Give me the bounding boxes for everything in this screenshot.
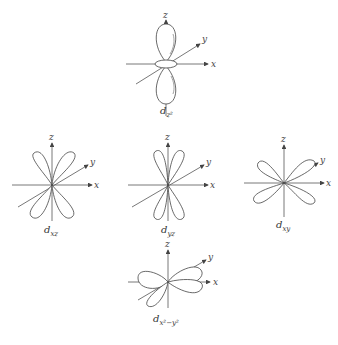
svg-text:z: z <box>164 132 170 142</box>
svg-text:x: x <box>210 180 215 190</box>
svg-text:x: x <box>213 277 218 287</box>
svg-text:y: y <box>207 252 214 262</box>
svg-text:x: x <box>211 59 216 69</box>
svg-text:z: z <box>164 239 170 249</box>
orbital-dyz: z y x <box>128 132 215 221</box>
orbital-diagram: z y x dz² z y x dxz z y x dyz <box>0 0 338 345</box>
svg-text:y: y <box>201 34 208 44</box>
orbital-dxz: z y x <box>12 132 99 221</box>
svg-text:y: y <box>205 157 212 167</box>
orbital-dx2-y2: z y x <box>128 239 218 308</box>
label-dx2-y2: dx²−y² <box>153 313 179 327</box>
svg-text:z: z <box>162 10 168 20</box>
label-dxz: dxz <box>44 224 58 238</box>
svg-text:x: x <box>94 180 99 190</box>
svg-text:y: y <box>89 157 96 167</box>
label-dyz: dyz <box>161 224 175 238</box>
label-dz2: dz² <box>160 105 173 119</box>
svg-text:z: z <box>280 134 286 144</box>
svg-text:z: z <box>48 132 54 142</box>
orbital-dxy: z y x <box>244 134 331 217</box>
d-orbitals-figure: z y x dz² z y x dxz z y x dyz <box>0 0 338 345</box>
svg-text:x: x <box>326 178 331 188</box>
orbital-dz2: z y x <box>126 10 216 116</box>
svg-text:y: y <box>319 155 326 165</box>
label-dxy: dxy <box>276 219 291 233</box>
